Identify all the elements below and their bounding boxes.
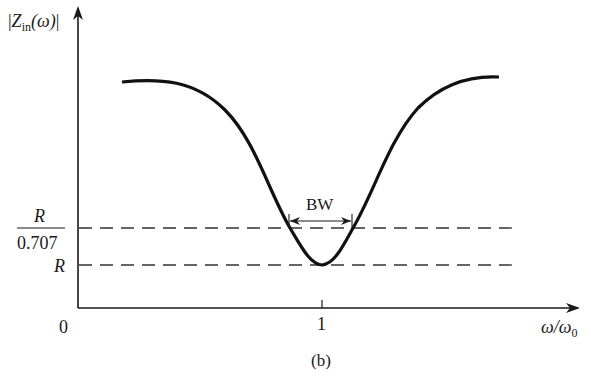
y-tick-label-r: R xyxy=(54,257,65,275)
y-tick-label-r-denominator: 0.707 xyxy=(17,234,58,252)
omega-subscript: 0 xyxy=(571,326,577,340)
origin-label: 0 xyxy=(59,318,68,336)
x-tick-label-1: 1 xyxy=(317,315,326,333)
z-argument: (ω) xyxy=(31,11,56,31)
x-axis-label: ω/ω0 xyxy=(541,318,577,339)
y-axis-label: |Zin(ω)| xyxy=(8,12,59,33)
impedance-curve xyxy=(122,77,499,265)
omega-ratio: ω/ω xyxy=(541,317,571,337)
bw-label: BW xyxy=(306,196,333,213)
y-tick-label-r-numerator: R xyxy=(34,207,45,225)
z-subscript: in xyxy=(22,20,31,34)
abs-close: | xyxy=(56,11,60,31)
z-symbol: Z xyxy=(12,11,22,31)
resonance-plot xyxy=(0,0,591,383)
figure-caption: (b) xyxy=(311,352,331,369)
